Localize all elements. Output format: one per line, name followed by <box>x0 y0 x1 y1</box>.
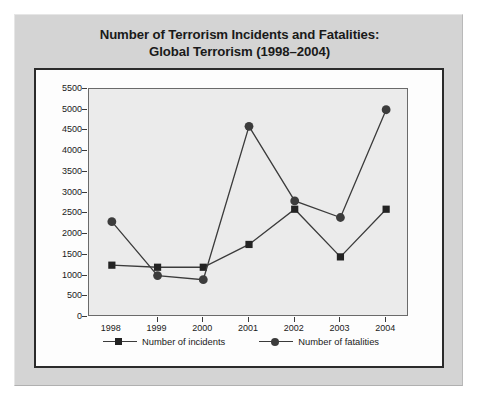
legend-item-2: Number of fatalities <box>259 336 379 347</box>
legend-marker-circle-icon <box>259 337 293 347</box>
legend-marker-square-icon <box>103 337 137 347</box>
chart-title-line-1: Number of Terrorism Incidents and Fatali… <box>100 27 380 42</box>
page-title: Number of Terrorism Incidents and Fatali… <box>15 26 464 60</box>
legend-item-1: Number of incidents <box>103 336 225 347</box>
x-axis-tick-label: 2004 <box>358 323 412 333</box>
legend-item-label: Number of incidents <box>142 336 225 347</box>
chart-panel: Number of Terrorism Incidents and Fatali… <box>14 14 463 386</box>
legend-item-label: Number of fatalities <box>298 336 379 347</box>
chart-figure: 0500100015002000250030003500400045005000… <box>34 68 444 368</box>
chart-legend: Number of incidentsNumber of fatalities <box>36 336 446 347</box>
x-axis-labels: 1998199920002001200220032004 <box>36 70 446 370</box>
chart-title-line-2: Global Terrorism (1998–2004) <box>15 43 464 60</box>
